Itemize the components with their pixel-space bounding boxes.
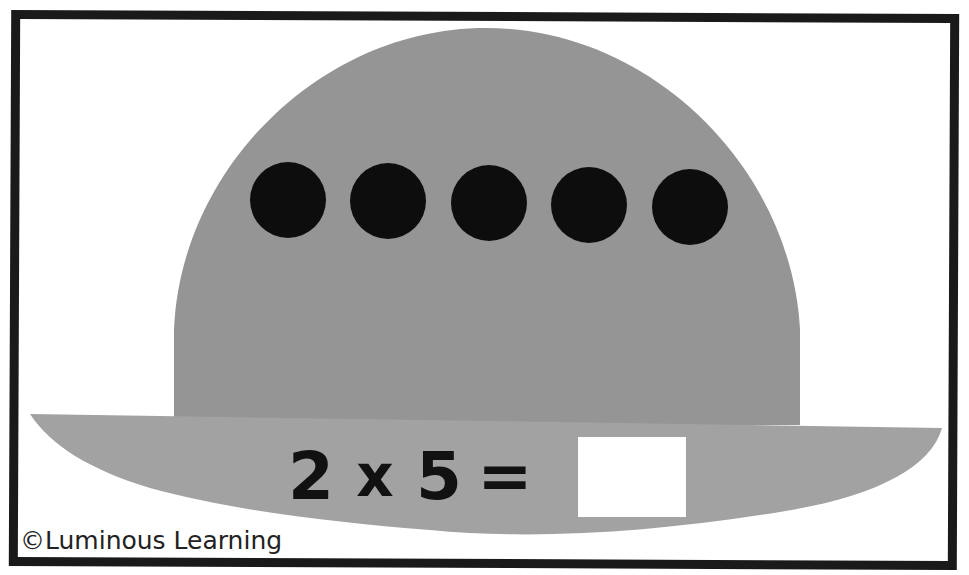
answer-box[interactable]: [578, 437, 686, 517]
dot: [551, 167, 627, 243]
factor-a: 2: [284, 438, 340, 515]
times-operator: x: [340, 442, 412, 510]
dot: [250, 162, 326, 238]
factor-b: 5: [412, 438, 468, 515]
dot: [652, 169, 728, 245]
multiplication-equation: 2 x 5 =: [284, 436, 544, 516]
equals-sign: =: [468, 438, 544, 515]
dot: [451, 165, 527, 241]
dot: [350, 163, 426, 239]
copyright-credit: ©Luminous Learning: [20, 526, 286, 555]
